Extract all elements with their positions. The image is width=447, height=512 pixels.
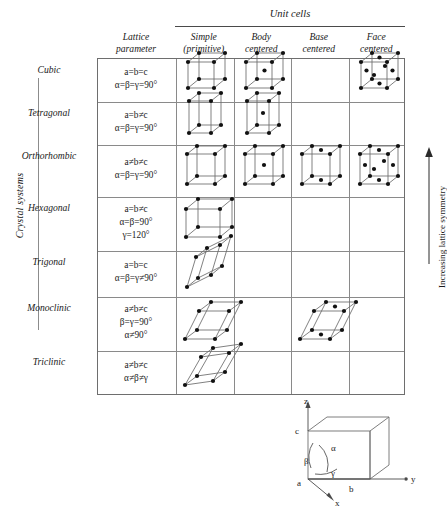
lattice-parameter-line: a=b≠c — [97, 203, 175, 216]
column-header-line2: parameter — [97, 43, 175, 55]
edge-label-b: b — [349, 484, 354, 494]
column-header-line2: centered — [290, 43, 348, 55]
lattice-parameter-line: a≠b≠c — [97, 359, 175, 372]
table-row-divider — [98, 251, 404, 252]
angle-label-gamma: γ — [330, 468, 335, 478]
unit-cell-diagram-triclinic-simple — [179, 353, 229, 392]
lattice-parameter-cell: a=b=cα=β=γ≠90° — [97, 259, 175, 285]
table-row-divider — [98, 145, 404, 146]
axis-label-y: y — [411, 474, 416, 484]
lattice-parameter-cell: a≠b≠cα=β=γ=90° — [97, 156, 175, 182]
column-header-lattice-parameter: Lattice parameter — [97, 31, 175, 57]
crystal-system-name: Triclinic — [3, 356, 95, 367]
unit-cell-diagram-orthorhombic-base — [294, 147, 344, 193]
lattice-parameter-cell: a=b≠cα=β=γ=90° — [97, 109, 175, 135]
axes-reference-diagram: z y x c a b α β γ — [275, 398, 442, 512]
lattice-parameter-line: α=β=γ=90° — [97, 122, 175, 135]
lattice-parameter-line: β=γ=90° — [97, 316, 175, 329]
increasing-symmetry-label: Increasing lattice symmetry — [437, 157, 447, 317]
lattice-parameter-line: γ=120° — [97, 229, 175, 242]
crystal-system-name: Trigonal — [3, 256, 95, 267]
unit-cell-diagram-tetragonal-simple — [179, 104, 229, 141]
unit-cell-diagram-orthorhombic-face — [352, 147, 402, 193]
edge-label-a: a — [297, 478, 301, 488]
lattice-parameter-cell: a≠b≠cβ=γ=90°α≠90° — [97, 303, 175, 342]
lattice-parameter-line: a=b=c — [97, 259, 175, 272]
table-row-divider — [98, 297, 404, 298]
unit-cell-diagram-trigonal-simple — [179, 253, 229, 293]
axis-label-x: x — [335, 498, 340, 508]
crystal-system-name: Hexagonal — [3, 202, 95, 213]
lattice-parameter-cell: a=b=cα=β=γ=90° — [97, 66, 175, 92]
unit-cells-underline — [175, 26, 405, 27]
lattice-parameter-line: α=β=γ≠90° — [97, 272, 175, 285]
lattice-parameter-line: α=β=γ=90° — [97, 79, 175, 92]
lattice-parameter-line: a≠b≠c — [97, 303, 175, 316]
column-header-line1: Face — [348, 31, 406, 43]
unit-cell-diagram-orthorhombic-simple — [179, 147, 229, 193]
table-row-divider — [98, 102, 404, 103]
column-header-line1: Body — [233, 31, 291, 43]
unit-cell-diagram-hexagonal-simple — [179, 199, 229, 247]
table-column-divider — [291, 59, 292, 394]
lattice-parameter-line: a≠b≠c — [97, 156, 175, 169]
table-row-divider — [98, 351, 404, 352]
table-column-divider — [349, 59, 350, 394]
column-header-line1: Simple — [175, 31, 233, 43]
angle-label-beta: β — [304, 456, 309, 466]
lattice-parameter-cell: a=b≠cα=β=90°γ=120° — [97, 203, 175, 242]
crystal-system-name: Tetragonal — [3, 107, 95, 118]
unit-cell-diagram-tetragonal-body — [237, 104, 287, 141]
system-name-column: CubicTetragonalOrthorhombicHexagonalTrig… — [0, 58, 95, 395]
unit-cells-title: Unit cells — [175, 8, 405, 19]
column-header-base-centered: Base centered — [290, 31, 348, 57]
lattice-parameter-line: α=β=90° — [97, 216, 175, 229]
lattice-parameter-line: α=β=γ=90° — [97, 169, 175, 182]
axis-label-z: z — [304, 398, 308, 406]
crystal-system-name: Cubic — [3, 64, 95, 75]
column-header-line1: Lattice — [97, 31, 175, 43]
lattice-parameter-line: α≠90° — [97, 329, 175, 342]
crystal-system-name: Monoclinic — [3, 302, 95, 313]
crystal-system-name: Orthorhombic — [3, 150, 95, 161]
column-header-line1: Base — [290, 31, 348, 43]
table-column-divider — [176, 59, 177, 394]
unit-cell-diagram-cubic-face — [352, 61, 402, 98]
increasing-symmetry-arrow-icon — [422, 146, 436, 266]
unit-cell-diagram-orthorhombic-body — [237, 147, 287, 193]
unit-cell-diagram-monoclinic-simple — [179, 299, 229, 347]
angle-label-alpha: α — [331, 443, 336, 453]
lattice-parameter-cell: a≠b≠cα≠β≠γ — [97, 359, 175, 385]
lattice-parameter-line: a=b=c — [97, 66, 175, 79]
lattice-parameter-line: α≠β≠γ — [97, 372, 175, 385]
unit-cell-diagram-monoclinic-base — [294, 299, 344, 347]
table-row-divider — [98, 197, 404, 198]
edge-label-c: c — [295, 426, 299, 436]
lattice-parameter-line: a=b≠c — [97, 109, 175, 122]
